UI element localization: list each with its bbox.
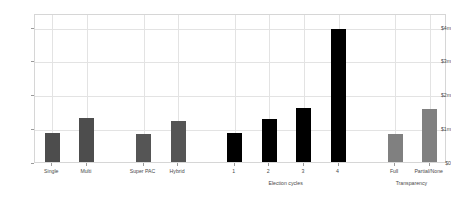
bar: [79, 118, 94, 162]
gridline-horizontal: [35, 29, 445, 30]
x-axis-tick-label: Full: [390, 168, 398, 175]
bar: [171, 121, 186, 162]
bar: [45, 133, 60, 162]
x-axis-tick-label: Single: [44, 168, 58, 175]
bar: [296, 108, 311, 162]
x-axis-tick-label: 2: [267, 168, 270, 175]
x-axis-tick-label: Super PAC: [130, 168, 156, 175]
y-axis-tick-label: $1m: [425, 126, 451, 132]
plot-area: [34, 14, 446, 163]
x-axis-tick-mark: [268, 163, 269, 166]
gridline-horizontal: [35, 62, 445, 63]
bar: [331, 29, 346, 162]
x-axis-tick-mark: [303, 163, 304, 166]
y-axis-tick-label: $2m: [425, 92, 451, 98]
y-axis-tick-mark: [31, 129, 34, 130]
bar: [422, 109, 437, 163]
group-axis-title: Transparency: [396, 180, 428, 187]
x-axis-tick-label: 4: [336, 168, 339, 175]
y-axis-tick-mark: [31, 28, 34, 29]
y-axis-tick-mark: [31, 163, 34, 164]
x-axis-tick-label: Partial/None: [414, 168, 443, 175]
bar: [227, 133, 242, 162]
x-axis-tick-mark: [143, 163, 144, 166]
y-axis-tick-label: $4m: [425, 25, 451, 31]
bar: [262, 119, 277, 162]
group-axis-title: Election cycles: [268, 180, 302, 187]
gridline-horizontal: [35, 130, 445, 131]
x-axis-tick-mark: [429, 163, 430, 166]
x-axis-tick-mark: [394, 163, 395, 166]
x-axis-tick-mark: [338, 163, 339, 166]
y-axis-tick-label: $3m: [425, 58, 451, 64]
x-axis-tick-mark: [234, 163, 235, 166]
x-axis-tick-mark: [51, 163, 52, 166]
y-axis-tick-mark: [31, 61, 34, 62]
x-axis-tick-label: Hybrid: [170, 168, 185, 175]
x-axis-tick-label: 1: [232, 168, 235, 175]
x-axis-tick-label: 3: [301, 168, 304, 175]
x-axis-tick-label: Multi: [80, 168, 91, 175]
bar: [136, 134, 151, 162]
gridline-horizontal: [35, 96, 445, 97]
bar: [388, 134, 403, 162]
y-axis-tick-mark: [31, 95, 34, 96]
x-axis-tick-mark: [86, 163, 87, 166]
x-axis-tick-mark: [177, 163, 178, 166]
bar-chart: $0$1m$2m$3m$4m SingleMultiSuper PACHybri…: [0, 0, 451, 198]
